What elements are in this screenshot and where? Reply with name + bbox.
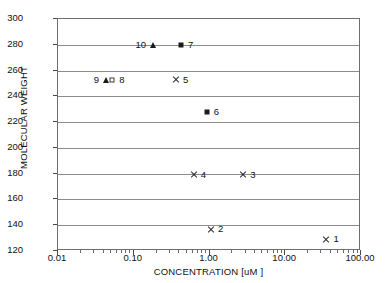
data-point-label: 9	[94, 75, 99, 85]
x-axis-minor-tick-mark	[186, 250, 187, 253]
x-axis-minor-tick-mark	[261, 250, 262, 253]
x-axis-minor-tick-mark	[192, 250, 193, 253]
y-axis-tick-label: 200	[0, 142, 23, 152]
x-axis-minor-tick-mark	[245, 250, 246, 253]
marker-cross-icon	[207, 225, 215, 233]
data-point-label: 6	[214, 107, 219, 117]
gridline	[58, 96, 359, 97]
marker-triangle-icon	[103, 77, 109, 83]
x-axis-minor-tick-mark	[348, 250, 349, 253]
data-point-label: 7	[188, 40, 193, 50]
x-axis-minor-tick-mark	[277, 250, 278, 253]
x-axis-tick-label: 100.00	[330, 253, 385, 263]
gridline	[58, 199, 359, 200]
x-axis-minor-tick-mark	[121, 250, 122, 253]
x-axis-tick-label: 0.10	[103, 253, 163, 263]
y-axis-tick-label: 160	[0, 193, 23, 203]
x-axis-minor-tick-mark	[110, 250, 111, 253]
x-axis-minor-tick-mark	[129, 250, 130, 253]
x-axis-minor-tick-mark	[197, 250, 198, 253]
marker-cross-icon	[322, 235, 330, 243]
data-point-label: 5	[183, 75, 188, 85]
y-axis-tick-label: 180	[0, 168, 23, 178]
x-axis-minor-tick-mark	[273, 250, 274, 253]
x-axis-minor-tick-mark	[231, 250, 232, 253]
gridline	[58, 148, 359, 149]
x-axis-minor-tick-mark	[357, 250, 358, 253]
x-axis-minor-tick-mark	[125, 250, 126, 253]
marker-square-icon	[204, 109, 209, 114]
plot-area: 12345678910	[57, 18, 360, 250]
data-point-label: 4	[201, 170, 206, 180]
x-axis-minor-tick-mark	[178, 250, 179, 253]
y-axis-tick-label: 280	[0, 39, 23, 49]
x-axis-minor-tick-mark	[307, 250, 308, 253]
y-axis-tick-label: 220	[0, 116, 23, 126]
gridline	[58, 174, 359, 175]
gridline	[58, 122, 359, 123]
y-axis-tick-label: 260	[0, 65, 23, 75]
marker-cross-icon	[190, 171, 198, 179]
x-axis-minor-tick-mark	[337, 250, 338, 253]
data-point-label: 3	[250, 170, 255, 180]
x-axis-minor-tick-mark	[116, 250, 117, 253]
x-axis-title: CONCENTRATION [uM ]	[57, 266, 360, 277]
x-axis-minor-tick-mark	[93, 250, 94, 253]
y-axis-tick-label: 120	[0, 245, 23, 255]
x-axis-minor-tick-mark	[281, 250, 282, 253]
x-axis-minor-tick-mark	[205, 250, 206, 253]
data-point-label: 8	[119, 75, 124, 85]
marker-triangle-icon	[150, 42, 156, 48]
data-point-label: 1	[333, 235, 338, 245]
x-axis-tick-label: 1.00	[179, 253, 239, 263]
gridline	[58, 71, 359, 72]
x-axis-minor-tick-mark	[343, 250, 344, 253]
x-axis-minor-tick-mark	[330, 250, 331, 253]
x-axis-minor-tick-mark	[80, 250, 81, 253]
marker-square-open-icon	[110, 77, 115, 82]
y-axis-tick-label: 300	[0, 13, 23, 23]
marker-square-icon	[178, 42, 183, 47]
y-axis-tick-label: 140	[0, 219, 23, 229]
x-axis-minor-tick-mark	[156, 250, 157, 253]
x-axis-minor-tick-mark	[169, 250, 170, 253]
x-axis-tick-label: 0.01	[27, 253, 87, 263]
x-axis-minor-tick-mark	[103, 250, 104, 253]
x-axis-minor-tick-mark	[254, 250, 255, 253]
x-axis-minor-tick-mark	[320, 250, 321, 253]
gridline	[58, 45, 359, 46]
x-axis-minor-tick-mark	[353, 250, 354, 253]
x-axis-minor-tick-mark	[201, 250, 202, 253]
y-axis-tick-label: 240	[0, 90, 23, 100]
marker-cross-icon	[172, 76, 180, 84]
x-axis-minor-tick-mark	[267, 250, 268, 253]
scatter-chart-figure: MOLECULAR WEIGHT 12014016018020022024026…	[0, 0, 385, 283]
data-point-label: 2	[218, 224, 223, 234]
marker-cross-icon	[239, 171, 247, 179]
x-axis-tick-label: 10.00	[254, 253, 314, 263]
data-point-label: 10	[136, 40, 147, 50]
